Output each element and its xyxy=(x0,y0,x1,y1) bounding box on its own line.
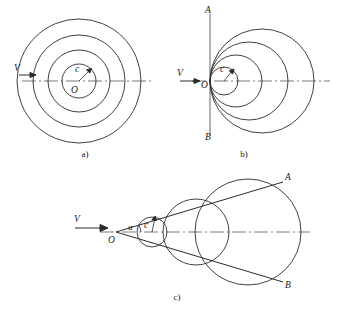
panel-c: V O α c A B c) xyxy=(74,172,310,302)
panel-c-apex-label: O xyxy=(108,235,115,245)
panel-c-velocity-arrow xyxy=(75,225,108,232)
panel-b-caption: b) xyxy=(240,149,248,159)
panel-c-radius-label: c xyxy=(144,220,149,230)
panel-a-radius-arrow xyxy=(79,69,92,82)
panel-b-origin-label: O xyxy=(201,80,208,90)
panel-b-radius-label: c xyxy=(220,64,225,74)
panel-b-front-bottom-label: B xyxy=(205,132,211,142)
panel-a-radius-label: c xyxy=(75,64,80,74)
panel-c-angle-arc xyxy=(139,225,141,233)
panel-c-angle-label: α xyxy=(128,222,133,232)
panel-a-velocity-label: V xyxy=(14,63,21,73)
panel-a: V c O a) xyxy=(14,19,152,159)
panel-b-radius-arrow xyxy=(224,69,234,81)
panel-c-radius-arrow xyxy=(152,216,157,232)
panel-b-velocity-arrow xyxy=(180,79,200,84)
panel-c-cone-line-upper xyxy=(116,182,283,232)
panel-b: V O c A B b) xyxy=(177,5,330,159)
panel-a-center-label: O xyxy=(71,85,78,95)
panel-a-caption: a) xyxy=(82,149,89,159)
panel-c-cone-line-lower xyxy=(116,232,283,282)
wave-propagation-diagram: V c O a) V O xyxy=(0,0,340,311)
panel-c-velocity-label: V xyxy=(74,214,81,224)
panel-c-caption: c) xyxy=(174,292,181,302)
panel-c-cone-bottom-label: B xyxy=(285,280,291,290)
panel-b-velocity-label: V xyxy=(177,68,184,78)
figure-root: V c O a) V O xyxy=(0,0,340,311)
panel-b-front-top-label: A xyxy=(204,5,211,15)
panel-c-cone-top-label: A xyxy=(284,172,291,182)
